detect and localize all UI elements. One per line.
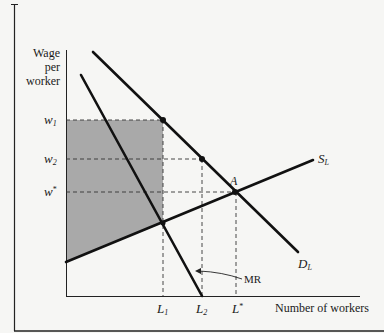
x-axis-label: Number of workers [275,302,369,314]
y-axis-label-line1: Wage [33,46,60,61]
mr-curve-label: MR [244,274,261,285]
supply-curve-label: SL [318,152,329,167]
point-L1-intersection [161,221,166,226]
tick-w2: w2 [44,152,57,167]
point-A [232,189,238,195]
point-A-label: A [230,175,237,187]
point-w2-demand [199,156,205,162]
tick-wstar: w* [44,185,57,198]
tick-L2: L2 [196,302,207,317]
arrowhead-icon [195,268,201,274]
tick-w1: w1 [44,113,57,128]
y-axis-label-line2: per [45,60,60,75]
y-axis-label-line3: worker [26,74,60,89]
tick-Lstar: L* [232,302,243,315]
demand-curve-label: DL [298,257,312,272]
tick-L1: L1 [157,302,168,317]
point-w1-demand [160,117,166,123]
